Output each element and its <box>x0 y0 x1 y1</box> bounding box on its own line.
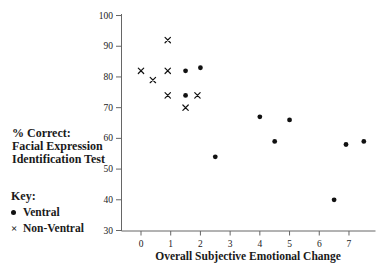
ventral-point <box>287 118 292 123</box>
ventral-point <box>183 93 188 98</box>
x-axis-title: Overall Subjective Emotional Change <box>155 250 341 263</box>
ventral-marker-icon <box>11 210 23 215</box>
ventral-point <box>213 154 218 159</box>
x-tick-label: 7 <box>347 239 352 249</box>
y-tick-label: 40 <box>104 195 114 205</box>
non-ventral-marker-icon: × <box>11 223 23 233</box>
legend-title: Key: <box>11 189 84 203</box>
y-axis-title-line-3: Identification Test <box>12 153 105 166</box>
y-tick-label: 80 <box>104 72 114 82</box>
x-tick-label: 0 <box>139 239 144 249</box>
legend-item-non-ventral: × Non-Ventral <box>11 221 84 235</box>
x-tick-label: 1 <box>168 239 173 249</box>
non-ventral-point <box>138 68 143 73</box>
non-ventral-point <box>165 37 170 42</box>
y-tick-label: 70 <box>104 103 114 113</box>
scatter-figure: % Correct: Facial Expression Identificat… <box>0 0 380 277</box>
ventral-point <box>272 139 277 144</box>
ventral-point <box>361 139 366 144</box>
ventral-point <box>344 142 349 147</box>
y-tick-label: 100 <box>99 11 114 21</box>
y-axis-title: % Correct: Facial Expression Identificat… <box>12 127 105 166</box>
non-ventral-point <box>183 105 188 110</box>
ventral-point <box>257 114 262 119</box>
data-points <box>138 37 366 202</box>
non-ventral-point <box>195 93 200 98</box>
ventral-point <box>183 68 188 73</box>
x-tick-label: 4 <box>257 239 262 249</box>
non-ventral-point <box>165 68 170 73</box>
ventral-point <box>198 65 203 70</box>
legend-item-non-ventral-label: Non-Ventral <box>23 222 84 234</box>
x-tick-label: 3 <box>228 239 233 249</box>
axes <box>122 14 376 231</box>
x-axis-ticks: 01234567 <box>139 231 352 249</box>
non-ventral-point <box>150 77 155 82</box>
y-tick-label: 30 <box>104 226 114 236</box>
legend-item-ventral-label: Ventral <box>23 206 60 218</box>
x-tick-label: 5 <box>287 239 292 249</box>
legend: Key: Ventral × Non-Ventral <box>11 189 84 235</box>
legend-item-ventral: Ventral <box>11 205 84 219</box>
y-axis-ticks: 30405060708090100 <box>99 11 122 236</box>
x-tick-label: 6 <box>317 239 322 249</box>
y-tick-label: 90 <box>104 41 114 51</box>
x-tick-label: 2 <box>198 239 203 249</box>
ventral-point <box>332 197 337 202</box>
non-ventral-point <box>165 93 170 98</box>
